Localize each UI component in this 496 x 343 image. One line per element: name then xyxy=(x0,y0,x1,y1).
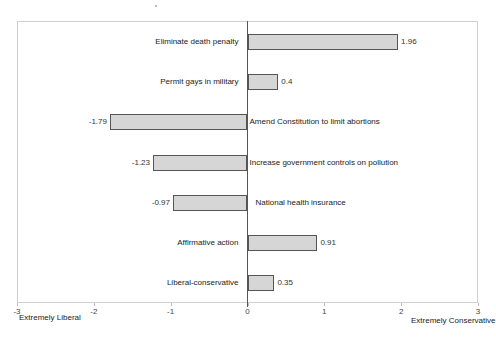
bar xyxy=(248,74,279,90)
bar xyxy=(248,235,318,251)
bar-value-label: 0.35 xyxy=(277,278,293,288)
x-tick-mark xyxy=(94,303,95,306)
axis-label-extremely-liberal: Extremely Liberal xyxy=(19,313,81,323)
x-tick-mark xyxy=(478,303,479,306)
category-label: Permit gays in military xyxy=(160,77,238,87)
category-label: National health insurance xyxy=(256,198,346,208)
noise-speck xyxy=(155,5,157,7)
bar-value-label: -0.97 xyxy=(152,198,170,208)
category-label: Affirmative action xyxy=(177,238,238,248)
x-tick-label: 2 xyxy=(399,307,403,317)
horizontal-bar-chart: 1.96Eliminate death penalty0.4Permit gay… xyxy=(0,0,496,343)
category-label: Eliminate death penalty xyxy=(155,37,238,47)
x-tick-label: 0 xyxy=(245,307,249,317)
bar xyxy=(173,195,248,211)
bar xyxy=(110,114,248,130)
x-tick-mark xyxy=(17,303,18,306)
axis-label-extremely-conservative: Extremely Conservative xyxy=(411,316,495,326)
x-tick-label: -2 xyxy=(90,307,97,317)
x-tick-mark xyxy=(401,303,402,306)
bar xyxy=(248,34,399,50)
x-tick-mark xyxy=(324,303,325,306)
bar xyxy=(248,275,275,291)
x-tick-mark xyxy=(248,303,249,306)
x-tick-mark xyxy=(171,303,172,306)
bar xyxy=(153,155,248,171)
bar-value-label: 1.96 xyxy=(401,37,417,47)
category-label: Amend Constitution to limit abortions xyxy=(250,117,380,127)
x-tick-label: 1 xyxy=(322,307,326,317)
category-label: Liberal-conservative xyxy=(167,278,239,288)
x-tick-label: -1 xyxy=(167,307,174,317)
bar-value-label: -1.79 xyxy=(89,117,107,127)
category-label: Increase government controls on pollutio… xyxy=(250,158,399,168)
bar-value-label: 0.4 xyxy=(281,77,292,87)
bar-value-label: -1.23 xyxy=(132,158,150,168)
bar-value-label: 0.91 xyxy=(320,238,336,248)
